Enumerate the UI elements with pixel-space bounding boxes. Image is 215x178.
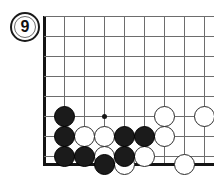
board-grid-line-horizontal <box>44 76 214 77</box>
board-grid-line-horizontal <box>44 96 214 97</box>
black-stone[interactable] <box>54 106 75 127</box>
white-stone[interactable] <box>94 126 115 147</box>
go-board[interactable] <box>0 0 214 178</box>
black-stone[interactable] <box>54 126 75 147</box>
board-grid-line-vertical <box>204 16 205 164</box>
board-grid-line-horizontal <box>44 56 214 57</box>
board-grid-line-horizontal <box>44 36 214 37</box>
move-number-label: 9 <box>21 19 30 35</box>
white-stone[interactable] <box>194 106 215 127</box>
black-stone[interactable] <box>114 126 135 147</box>
white-stone[interactable] <box>154 106 175 127</box>
board-grid-line-horizontal <box>44 16 214 17</box>
black-stone[interactable] <box>54 146 75 167</box>
white-stone[interactable] <box>74 126 95 147</box>
board-edge-line-left <box>43 16 46 164</box>
white-stone[interactable] <box>134 146 155 167</box>
black-stone[interactable] <box>134 126 155 147</box>
black-stone[interactable] <box>94 154 115 175</box>
star-point <box>102 114 107 119</box>
go-diagram-root: 9 <box>0 0 214 178</box>
board-grid-line-vertical <box>184 16 185 164</box>
white-stone[interactable] <box>174 154 195 175</box>
black-stone[interactable] <box>74 146 95 167</box>
black-stone[interactable] <box>114 146 135 167</box>
white-stone[interactable] <box>154 126 175 147</box>
